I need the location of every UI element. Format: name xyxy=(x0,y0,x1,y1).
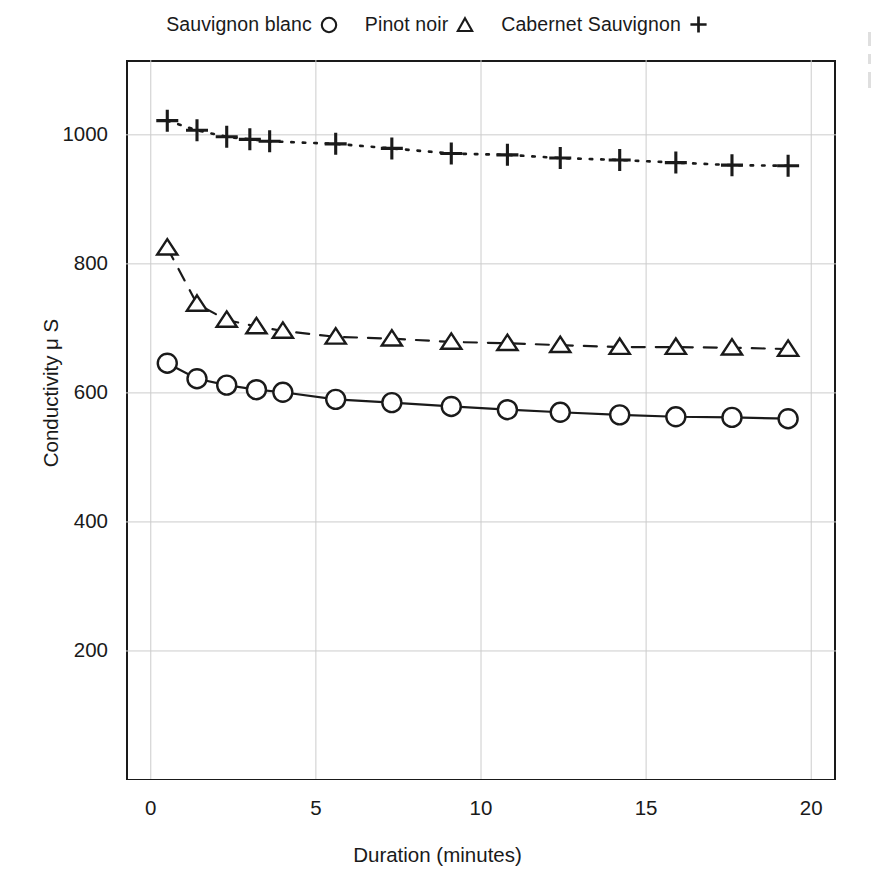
legend-item-pinot-noir: Pinot noir xyxy=(365,15,475,35)
legend-label-cabernet-sauvignon: Cabernet Sauvignon xyxy=(501,15,681,35)
x-tick-label: 5 xyxy=(286,796,346,820)
legend-item-sauvignon-blanc: Sauvignon blanc xyxy=(166,15,339,35)
legend-label-sauvignon-blanc: Sauvignon blanc xyxy=(166,15,312,35)
legend-label-pinot-noir: Pinot noir xyxy=(365,15,448,35)
data-series-layer xyxy=(156,110,799,429)
chart-canvas xyxy=(126,60,836,780)
chart-figure: Sauvignon blanc Pinot noir Cabernet Sauv… xyxy=(0,0,875,883)
x-axis-title: Duration (minutes) xyxy=(0,843,875,867)
legend-item-cabernet-sauvignon: Cabernet Sauvignon xyxy=(501,14,709,35)
series-pinot-noir xyxy=(157,239,798,356)
circle-marker-icon xyxy=(319,15,339,35)
chart-legend: Sauvignon blanc Pinot noir Cabernet Sauv… xyxy=(0,14,875,35)
x-tick-label: 20 xyxy=(781,796,841,820)
triangle-marker-icon xyxy=(455,15,475,35)
x-tick-label: 15 xyxy=(616,796,676,820)
plot-area xyxy=(126,60,836,780)
series-sauvignon-blanc xyxy=(158,354,798,428)
plus-marker-icon xyxy=(688,14,709,35)
series-cabernet-sauvignon xyxy=(156,110,799,177)
y-axis-title: Conductivity μ S xyxy=(39,73,65,713)
x-tick-label: 0 xyxy=(121,796,181,820)
x-tick-label: 10 xyxy=(451,796,511,820)
scan-edge-artifact xyxy=(863,30,873,92)
